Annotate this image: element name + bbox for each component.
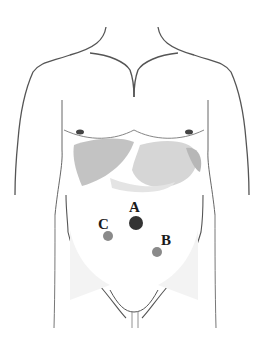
point-b-marker: [152, 247, 162, 257]
torso-illustration: [0, 0, 264, 337]
point-c-label: C: [98, 217, 109, 232]
liver: [73, 138, 134, 186]
point-a-marker: [129, 216, 143, 230]
point-a-label: A: [129, 200, 140, 215]
point-c-marker: [103, 231, 113, 241]
torso-outline: [15, 27, 249, 195]
abdominal-organs: [73, 138, 201, 192]
point-b-label: B: [161, 233, 171, 248]
